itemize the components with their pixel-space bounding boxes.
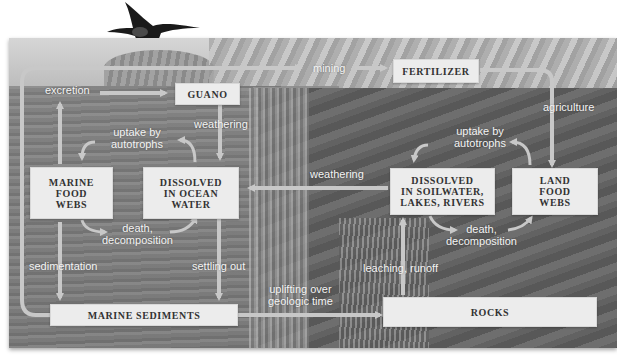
waterfall (339, 218, 429, 348)
excretion-label: excretion (45, 84, 90, 96)
weathering-land-label: weathering (310, 168, 364, 180)
uptake-marine-line-2: autotrophs (111, 138, 163, 150)
dissolved-ocean-line-2: IN OCEAN (164, 188, 219, 199)
dissolved-soil-line-1: DISSOLVED (411, 175, 473, 186)
fertilizer-box: FERTILIZER (393, 59, 479, 83)
dissolved-soil-line-2: IN SOILWATER, (401, 186, 484, 197)
uptake-land-line-1: uptake by (454, 125, 506, 137)
uptake-land-line-2: autotrophs (454, 137, 506, 149)
cliff (249, 88, 309, 348)
death-land-line-2: decomposition (446, 235, 517, 247)
dissolved-soil-line-3: LAKES, RIVERS (400, 197, 485, 208)
dissolved-ocean-box: DISSOLVED IN OCEAN WATER (143, 167, 239, 219)
marine-food-webs-line-2: FOOD (56, 188, 87, 199)
rocks-box: ROCKS (383, 297, 597, 327)
uptake-marine-line-1: uptake by (111, 126, 163, 138)
death-land-label: death, decomposition (446, 223, 517, 247)
uplifting-label: uplifting over geologic time (268, 283, 333, 307)
marine-sediments-box: MARINE SEDIMENTS (50, 304, 238, 326)
land-food-webs-line-3: WEBS (539, 197, 570, 208)
uplifting-line-2: geologic time (268, 295, 333, 307)
death-marine-label: death, decomposition (102, 222, 173, 246)
settling-out-label: settling out (192, 260, 245, 272)
death-land-line-1: death, (446, 223, 517, 235)
dissolved-soil-box: DISSOLVED IN SOILWATER, LAKES, RIVERS (390, 168, 495, 215)
uptake-land-label: uptake by autotrophs (454, 125, 506, 149)
dissolved-ocean-line-1: DISSOLVED (160, 177, 222, 188)
island-rock (104, 50, 214, 86)
marine-food-webs-line-1: MARINE (49, 177, 94, 188)
death-marine-line-1: death, (102, 222, 173, 234)
leaching-runoff-label: leaching, runoff (363, 262, 438, 274)
weathering-guano-label: weathering (194, 118, 248, 130)
land-food-webs-line-2: FOOD (539, 186, 570, 197)
marine-food-webs-box: MARINE FOOD WEBS (30, 167, 113, 219)
uptake-marine-label: uptake by autotrophs (111, 126, 163, 150)
marine-food-webs-line-3: WEBS (56, 199, 87, 210)
uplifting-line-1: uplifting over (268, 283, 333, 295)
mining-label: mining (313, 62, 345, 74)
agriculture-label: agriculture (543, 101, 594, 113)
guano-box: GUANO (175, 83, 240, 105)
dissolved-ocean-line-3: WATER (172, 199, 211, 210)
sedimentation-label: sedimentation (29, 260, 98, 272)
land-food-webs-line-1: LAND (540, 175, 571, 186)
death-marine-line-2: decomposition (102, 234, 173, 246)
land-food-webs-box: LAND FOOD WEBS (512, 168, 598, 215)
